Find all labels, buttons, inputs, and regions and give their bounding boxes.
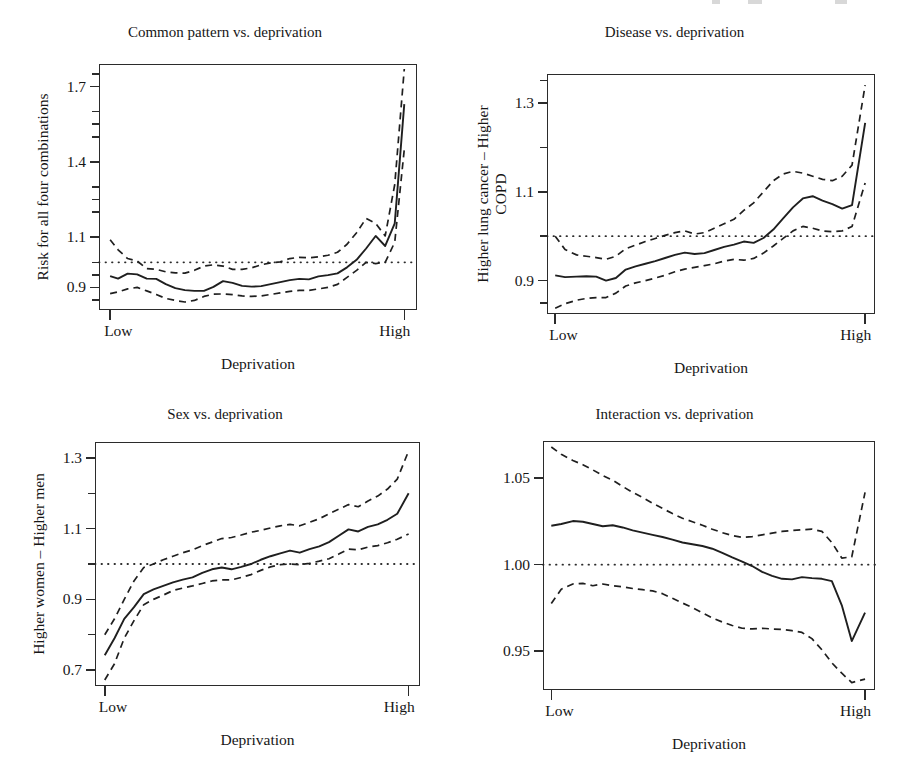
y-axis-minor-tick: [540, 147, 547, 149]
panel-interaction: Interaction vs. deprivation Deprivation …: [450, 400, 899, 774]
series-upper-confidence-limit: [555, 85, 865, 259]
y-axis-tick: [90, 86, 99, 88]
x-axis-tick: [554, 314, 556, 324]
x-axis-title-interaction: Deprivation: [543, 735, 875, 753]
y-axis-tick: [90, 161, 99, 163]
y-axis-tick: [534, 650, 543, 652]
x-axis-label-high: High: [345, 699, 415, 715]
series-lower-confidence-limit: [555, 183, 865, 308]
y-axis-tick: [538, 280, 547, 282]
y-axis-minor-tick: [92, 73, 99, 75]
y-axis-tick-label: 1.3: [36, 450, 82, 466]
x-axis-tick: [551, 690, 553, 700]
y-axis-tick-label: 1.00: [472, 557, 530, 573]
series-estimate: [555, 123, 865, 281]
series-upper-confidence-limit: [105, 451, 409, 635]
y-axis-minor-tick: [88, 634, 95, 636]
x-axis-title-sex: Deprivation: [95, 731, 420, 749]
series-upper-confidence-limit: [551, 447, 865, 558]
y-axis-minor-tick: [92, 299, 99, 301]
y-axis-minor-tick: [92, 211, 99, 213]
y-axis-tick: [86, 669, 95, 671]
cropped-text-artifact-2: [748, 0, 762, 4]
x-axis-title-disease: Deprivation: [547, 359, 875, 377]
y-axis-tick-label: 0.95: [472, 643, 530, 659]
y-axis-tick-label: 0.7: [36, 662, 82, 678]
y-axis-tick: [90, 287, 99, 289]
y-axis-tick: [534, 477, 543, 479]
x-axis-tick: [864, 314, 866, 324]
x-axis-title-common-pattern: Deprivation: [99, 355, 417, 373]
x-axis-label-high: High: [340, 323, 410, 339]
series-estimate: [105, 493, 409, 655]
y-axis-tick: [90, 236, 99, 238]
y-axis-minor-tick: [540, 235, 547, 237]
y-axis-minor-tick: [92, 123, 99, 125]
y-axis-tick-label: 0.9: [40, 279, 86, 295]
x-axis-label-high: High: [801, 327, 871, 343]
y-axis-tick: [538, 102, 547, 104]
y-axis-tick-label: 1.05: [472, 470, 530, 486]
y-axis-minor-tick: [88, 563, 95, 565]
cropped-text-artifact-1: [712, 0, 720, 4]
y-axis-tick-label: 1.1: [36, 521, 82, 537]
x-axis-label-low: Low: [99, 699, 169, 715]
panel-sex: Sex vs. deprivation Higher women – Highe…: [0, 400, 450, 774]
y-axis-minor-tick: [92, 136, 99, 138]
y-axis-tick-label: 0.9: [488, 273, 534, 289]
y-axis-tick-label: 0.9: [36, 591, 82, 607]
y-axis-tick-label: 1.7: [40, 79, 86, 95]
x-axis-tick: [408, 686, 410, 696]
y-axis-tick-label: 1.4: [40, 154, 86, 170]
y-axis-minor-tick: [92, 186, 99, 188]
x-axis-tick: [104, 686, 106, 696]
x-axis-tick: [864, 690, 866, 700]
x-axis-label-low: Low: [549, 327, 619, 343]
y-axis-minor-tick: [88, 493, 95, 495]
series-upper-confidence-limit: [110, 69, 404, 273]
x-axis-tick: [404, 310, 406, 320]
panel-common-pattern: Common pattern vs. deprivation Risk for …: [0, 18, 450, 390]
y-axis-tick: [86, 599, 95, 601]
series-lower-confidence-limit: [105, 534, 409, 680]
figure-root: Common pattern vs. deprivation Risk for …: [0, 0, 899, 774]
y-axis-tick-label: 1.3: [488, 95, 534, 111]
y-axis-tick: [534, 564, 543, 566]
panel-disease: Disease vs. deprivation Higher lung canc…: [450, 18, 899, 390]
y-axis-title-common-pattern: Risk for all four combinations: [34, 64, 51, 310]
y-axis-minor-tick: [540, 80, 547, 82]
y-axis-minor-tick: [92, 262, 99, 264]
y-axis-minor-tick: [540, 302, 547, 304]
cropped-text-artifact-3: [835, 0, 847, 4]
x-axis-tick: [109, 310, 111, 320]
y-axis-tick: [86, 528, 95, 530]
y-axis-tick: [538, 191, 547, 193]
y-axis-tick: [86, 457, 95, 459]
y-axis-minor-tick: [92, 274, 99, 276]
y-axis-minor-tick: [92, 199, 99, 201]
y-axis-tick-label: 1.1: [40, 229, 86, 245]
y-axis-minor-tick: [92, 111, 99, 113]
x-axis-label-low: Low: [104, 323, 174, 339]
series-lower-confidence-limit: [551, 583, 865, 682]
x-axis-label-low: Low: [545, 703, 615, 719]
x-axis-label-high: High: [801, 703, 871, 719]
y-axis-tick-label: 1.1: [488, 184, 534, 200]
y-axis-title-sex: Higher women – Higher men: [30, 442, 47, 686]
series-estimate: [551, 521, 865, 641]
